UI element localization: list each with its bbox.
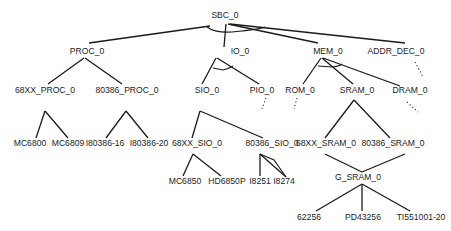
tree-edge bbox=[316, 184, 362, 211]
tree-node-label: 80386_PROC_0 bbox=[95, 85, 158, 95]
tree-edge bbox=[217, 58, 259, 84]
tree-edge bbox=[48, 58, 84, 84]
tree-node-label: PD43256 bbox=[345, 212, 381, 222]
tree-node-label: I80386-16 bbox=[86, 138, 125, 148]
elided-branch-edge bbox=[407, 102, 418, 112]
tree-edge bbox=[89, 26, 210, 43]
elided-branch-edge bbox=[262, 98, 266, 109]
elided-branch-edge bbox=[294, 98, 297, 109]
tree-node-label: PIO_0 bbox=[250, 85, 275, 95]
tree-edge bbox=[200, 111, 263, 138]
tree-node-label: MC6809 bbox=[52, 138, 85, 148]
tree-edge bbox=[183, 154, 193, 176]
tree-edge bbox=[45, 111, 68, 138]
tree-edge bbox=[126, 111, 148, 138]
tree-node-label: I8274 bbox=[273, 176, 295, 186]
tree-node-label: MEM_0 bbox=[313, 46, 343, 56]
tree-edge bbox=[260, 154, 286, 177]
tree-edge bbox=[202, 58, 216, 84]
tree-node-label: PROC_0 bbox=[70, 46, 105, 56]
tree-node-label: G_SRAM_0 bbox=[335, 172, 381, 182]
tree-edge bbox=[322, 58, 353, 84]
tree-node-label: MC6800 bbox=[14, 138, 47, 148]
tree-node-label: MC6850 bbox=[169, 176, 202, 186]
tree-edge bbox=[230, 24, 405, 43]
tree-edge bbox=[85, 58, 122, 84]
tree-node-label: ADDR_DEC_0 bbox=[368, 46, 425, 56]
tree-node-label: SRAM_0 bbox=[340, 85, 375, 95]
tree-edge bbox=[325, 100, 354, 138]
tree-edge bbox=[303, 58, 321, 84]
tree-node-label: TI551001-20 bbox=[397, 212, 446, 222]
tree-node-label: IO_0 bbox=[231, 46, 250, 56]
tree-edge bbox=[36, 111, 45, 138]
elided-branch-edge bbox=[415, 62, 423, 77]
tree-node-label: 80386_SRAM_0 bbox=[361, 138, 424, 148]
tree-edge bbox=[224, 24, 226, 47]
tree-node-label: 68XX_PROC_0 bbox=[15, 85, 75, 95]
tree-node-label: ROM_0 bbox=[285, 85, 315, 95]
tree-node-label: SIO_0 bbox=[195, 85, 220, 95]
tree-node-label: 80386_SIO_0 bbox=[245, 138, 298, 148]
tree-edge bbox=[325, 154, 362, 172]
and-or-tree-diagram: SBC_0PROC_0IO_0MEM_0ADDR_DEC_068XX_PROC_… bbox=[0, 0, 451, 231]
tree-edge bbox=[192, 111, 200, 138]
tree-edge bbox=[362, 154, 405, 172]
tree-edge bbox=[354, 100, 390, 138]
tree-edge bbox=[106, 111, 126, 138]
tree-node-label: I80386-20 bbox=[130, 138, 169, 148]
node-labels: SBC_0PROC_0IO_0MEM_0ADDR_DEC_068XX_PROC_… bbox=[14, 10, 446, 222]
tree-node-label: DRAM_0 bbox=[393, 85, 428, 95]
tree-edge bbox=[362, 184, 410, 211]
tree-edge bbox=[323, 58, 400, 86]
and-arc bbox=[207, 27, 265, 32]
tree-edge bbox=[193, 154, 221, 176]
tree-node-label: I8251 bbox=[249, 176, 271, 186]
tree-edge bbox=[228, 24, 318, 43]
tree-node-label: 62256 bbox=[297, 212, 321, 222]
tree-node-label: 68XX_SIO_0 bbox=[172, 138, 222, 148]
tree-node-label: 68XX_SRAM_0 bbox=[296, 138, 356, 148]
tree-node-label: SBC_0 bbox=[211, 10, 238, 20]
tree-node-label: HD6850P bbox=[208, 176, 246, 186]
